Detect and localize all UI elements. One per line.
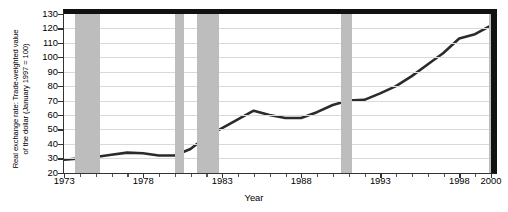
x-tick-mark-minor	[112, 174, 113, 177]
x-tick-mark	[301, 174, 302, 178]
x-tick-mark-minor	[286, 174, 287, 177]
x-tick-mark	[491, 174, 492, 178]
x-tick-mark	[380, 174, 381, 178]
chart-figure: Real exchange rate: Trade-weighted value…	[0, 0, 508, 212]
y-tick-mark	[58, 173, 63, 174]
y-tick-mark	[58, 115, 63, 116]
x-tick-mark-minor	[428, 174, 429, 177]
x-tick-mark-minor	[349, 174, 350, 177]
x-tick-mark-minor	[317, 174, 318, 177]
x-axis-ticks: 1973197819831988199319982000	[0, 0, 508, 212]
x-tick-mark	[459, 174, 460, 178]
y-tick-mark	[58, 158, 63, 159]
x-tick-mark-minor	[254, 174, 255, 177]
x-tick-mark-minor	[412, 174, 413, 177]
x-tick-mark-minor	[206, 174, 207, 177]
x-tick-mark-minor	[80, 174, 81, 177]
x-tick-mark-minor	[270, 174, 271, 177]
x-tick-mark-minor	[396, 174, 397, 177]
x-tick-mark-minor	[96, 174, 97, 177]
y-tick-mark	[58, 28, 63, 29]
y-tick-mark	[58, 72, 63, 73]
x-tick-mark-minor	[475, 174, 476, 177]
y-tick-mark	[58, 57, 63, 58]
x-tick-label: 2000	[471, 176, 508, 185]
x-tick-mark-minor	[159, 174, 160, 177]
y-tick-mark	[58, 86, 63, 87]
y-tick-mark	[58, 101, 63, 102]
x-tick-mark-minor	[333, 174, 334, 177]
y-tick-mark	[58, 129, 63, 130]
x-tick-mark	[222, 174, 223, 178]
x-tick-mark-minor	[444, 174, 445, 177]
x-axis-title: Year	[0, 192, 508, 203]
x-tick-mark	[143, 174, 144, 178]
x-tick-mark-minor	[175, 174, 176, 177]
x-tick-mark-minor	[365, 174, 366, 177]
y-tick-mark	[58, 144, 63, 145]
x-tick-mark-minor	[238, 174, 239, 177]
x-tick-mark-minor	[191, 174, 192, 177]
y-tick-mark	[58, 43, 63, 44]
x-tick-mark	[64, 174, 65, 178]
y-tick-mark	[58, 14, 63, 15]
x-tick-mark-minor	[127, 174, 128, 177]
